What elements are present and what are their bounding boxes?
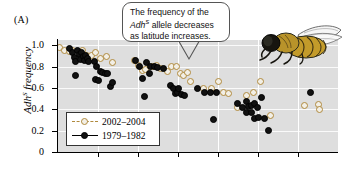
y-axis-tick [52,131,57,132]
data-point [257,78,264,85]
y-axis-tick-label: 0.6 [0,83,48,93]
legend-symbol-filled-circle [71,130,99,141]
y-axis-tick-label: 1.0 [0,40,48,50]
data-point [265,127,272,134]
data-point [261,115,268,122]
data-point [146,70,153,77]
y-axis-tick [52,67,57,68]
y-axis-tick-label: 0.4 [0,104,48,114]
data-point [139,75,146,82]
data-point [109,79,116,86]
data-point [103,53,110,60]
data-point [210,116,217,123]
y-axis-tick [52,109,57,110]
y-axis-tick [52,88,57,89]
data-point [267,112,274,119]
y-axis-tick [52,152,57,153]
data-point [215,78,222,85]
callout-bubble: The frequency of theAdhS allele decrease… [122,2,230,42]
data-point [258,94,265,101]
data-point [72,72,79,79]
y-axis-tick-label: 0.8 [0,62,48,72]
data-point [187,78,194,85]
data-point [194,85,201,92]
data-point [136,63,143,70]
data-point [225,90,232,97]
data-point [95,77,102,84]
chart-legend: 2002–2004 1979–1982 [66,112,160,146]
legend-item-1979-1982: 1979–1982 [71,129,146,142]
callout-text: The frequency of theAdhS allele decrease… [130,7,224,41]
x-axis-tick [218,152,219,157]
data-point [104,70,111,77]
data-point [250,89,257,96]
horizontal-gridline [58,109,338,110]
y-axis-tick-label: 0 [0,147,48,157]
data-point [307,89,314,96]
data-point [173,63,180,70]
figure-panel-a: (A) AdhS frequency 1.00.80.60.40.20 The … [0,0,347,184]
legend-item-2002-2004: 2002–2004 [71,115,146,128]
data-point [184,69,191,76]
legend-label-1979-1982: 1979–1982 [102,131,146,141]
vertical-gridline [218,40,219,152]
x-axis-tick [178,152,179,157]
y-axis-tick [52,45,57,46]
y-axis-tick-label: 0.2 [0,126,48,136]
legend-symbol-open-circle [71,116,99,127]
x-axis-tick [98,152,99,157]
data-point [316,106,323,113]
y-axis-ticks: 1.00.80.60.40.20 [0,0,50,184]
x-axis-tick [138,152,139,157]
data-point [181,92,188,99]
data-point [109,59,116,66]
x-axis-tick [298,152,299,157]
data-point [254,104,261,111]
data-point [301,102,308,109]
x-axis-tick [258,152,259,157]
data-point [141,93,148,100]
drosophila-fly-illustration [258,20,344,66]
legend-label-2002-2004: 2002–2004 [102,117,146,127]
